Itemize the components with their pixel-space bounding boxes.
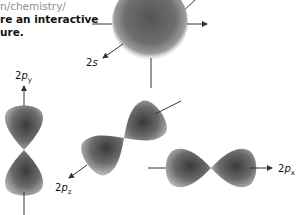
orbital-2s: 2s bbox=[86, 0, 207, 88]
sphere-2s-shape bbox=[112, 0, 188, 60]
orbital-diagram: 2s 2py 2pz 2px bbox=[0, 0, 304, 215]
lobe-right bbox=[211, 149, 256, 187]
z-axis-arrow bbox=[69, 165, 87, 178]
label-2py: 2py bbox=[15, 70, 32, 84]
lobe-left bbox=[166, 149, 211, 187]
label-2pz: 2pz bbox=[55, 182, 72, 196]
orbital-2px: 2px bbox=[148, 149, 295, 187]
orbital-2py: 2py bbox=[5, 70, 43, 215]
label-2px: 2px bbox=[278, 163, 295, 177]
z-axis-arrow bbox=[103, 44, 123, 58]
label-2s: 2s bbox=[86, 57, 98, 68]
axis-line bbox=[155, 101, 181, 114]
lobe-bottom bbox=[5, 150, 43, 196]
orbital-2pz: 2pz bbox=[55, 96, 181, 196]
lobe-top bbox=[5, 106, 43, 151]
